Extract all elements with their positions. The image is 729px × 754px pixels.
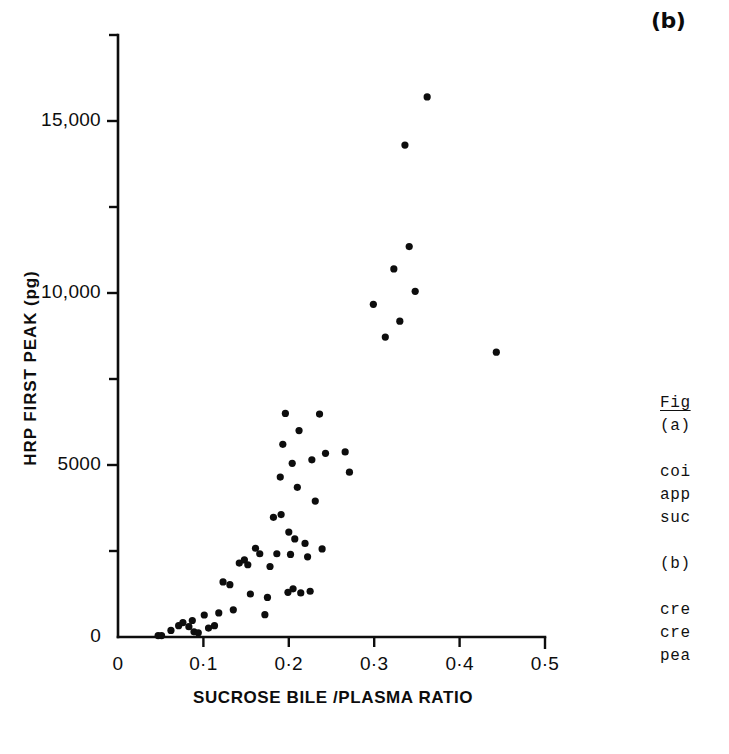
- data-point: [370, 301, 377, 308]
- data-point: [278, 511, 285, 518]
- caption-line: cre: [660, 599, 729, 622]
- y-tick-label: 0: [90, 625, 101, 647]
- data-point: [390, 265, 397, 272]
- caption-line: coi: [660, 461, 729, 484]
- data-point: [266, 563, 273, 570]
- data-point: [307, 588, 314, 595]
- data-point: [294, 484, 301, 491]
- data-point: [167, 627, 174, 634]
- y-tick-label: 10,000: [41, 281, 101, 303]
- data-point: [396, 318, 403, 325]
- data-point: [316, 410, 323, 417]
- data-point: [319, 545, 326, 552]
- figure-caption-block: Fig (a)coiappsuc(b)crecrepea: [660, 392, 729, 668]
- caption-line: (b): [660, 553, 729, 576]
- caption-spacer: [660, 530, 729, 553]
- data-point: [289, 585, 296, 592]
- caption-spacer: [660, 438, 729, 461]
- panel-label: (b): [651, 8, 685, 33]
- data-marker-layer: [155, 0, 500, 639]
- data-point: [195, 629, 202, 636]
- data-point: [205, 624, 212, 631]
- data-point: [297, 589, 304, 596]
- caption-heading: Fig: [660, 392, 729, 415]
- y-axis-title: HRP FIRST PEAK (pg): [21, 253, 41, 483]
- caption-line: (a): [660, 415, 729, 438]
- data-point: [346, 469, 353, 476]
- caption-spacer: [660, 576, 729, 599]
- data-point: [301, 540, 308, 547]
- y-tick-label: 15,000: [41, 109, 101, 131]
- data-point: [230, 606, 237, 613]
- data-point: [312, 498, 319, 505]
- data-point: [244, 561, 251, 568]
- data-point: [264, 594, 271, 601]
- data-point: [247, 590, 254, 597]
- caption-lines: (a)coiappsuc(b)crecrepea: [660, 415, 729, 668]
- data-point: [201, 611, 208, 618]
- data-point: [295, 427, 302, 434]
- x-tick-label: 0·5: [515, 653, 575, 675]
- data-point: [277, 473, 284, 480]
- caption-line: app: [660, 484, 729, 507]
- caption-line: cre: [660, 622, 729, 645]
- data-point: [342, 448, 349, 455]
- x-tick-label: 0·4: [430, 653, 490, 675]
- data-point: [226, 581, 233, 588]
- scatter-plot-figure: 0500010,00015,000 00·10·20·30·40·5 HRP F…: [0, 0, 620, 754]
- x-tick-label: 0: [88, 653, 148, 675]
- data-point: [189, 617, 196, 624]
- axis-layer: [107, 35, 545, 649]
- data-point: [185, 623, 192, 630]
- data-point: [289, 460, 296, 467]
- data-point: [322, 450, 329, 457]
- data-point: [158, 632, 165, 639]
- data-point: [401, 141, 408, 148]
- data-point: [261, 611, 268, 618]
- data-point: [219, 578, 226, 585]
- data-point: [215, 609, 222, 616]
- data-point: [308, 456, 315, 463]
- data-point: [179, 619, 186, 626]
- data-point: [282, 410, 289, 417]
- data-point: [382, 333, 389, 340]
- data-point: [304, 553, 311, 560]
- data-point: [291, 535, 298, 542]
- x-axis-title: SUCROSE BILE /PLASMA RATIO: [118, 688, 548, 708]
- x-tick-label: 0·2: [259, 653, 319, 675]
- data-point: [270, 514, 277, 521]
- data-point: [256, 550, 263, 557]
- data-point: [279, 441, 286, 448]
- data-point: [273, 550, 280, 557]
- data-point: [493, 349, 500, 356]
- caption-line: suc: [660, 507, 729, 530]
- y-tick-label: 5000: [58, 453, 101, 475]
- data-point: [287, 551, 294, 558]
- data-point: [412, 288, 419, 295]
- x-tick-label: 0·3: [344, 653, 404, 675]
- caption-line: pea: [660, 645, 729, 668]
- data-point: [285, 528, 292, 535]
- data-point: [406, 243, 413, 250]
- x-tick-label: 0·1: [173, 653, 233, 675]
- data-point: [424, 93, 431, 100]
